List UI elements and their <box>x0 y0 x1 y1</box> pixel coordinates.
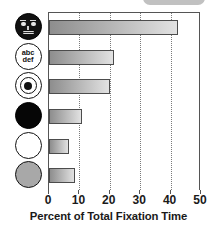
bar-row <box>49 43 114 73</box>
abc-def-line2: def <box>23 56 34 64</box>
bar-chart-figure: abc def 01020304050 Percent of Total Fix… <box>0 0 217 230</box>
bar-gray-circle-icon <box>49 168 75 183</box>
bar-bullseye-target-icon <box>49 79 110 94</box>
bullseye-target-icon <box>15 72 42 99</box>
category-icon-column: abc def <box>8 12 48 190</box>
target-center-dot <box>24 82 32 90</box>
category-icon-cell-1 <box>8 12 48 42</box>
x-axis-title: Percent of Total Fixation Time <box>0 210 217 222</box>
face-mouth <box>23 31 34 35</box>
category-icon-cell-2: abc def <box>8 42 48 72</box>
black-circle-icon <box>15 102 42 129</box>
x-axis-tick-labels: 01020304050 <box>48 193 200 209</box>
gray-circle-icon <box>15 161 42 188</box>
bar-row <box>49 102 82 132</box>
bar-row <box>49 13 178 43</box>
category-icon-cell-4 <box>8 101 48 131</box>
plot-area <box>48 12 200 190</box>
bar-row <box>49 131 69 161</box>
face-eye-right <box>31 22 36 25</box>
bar-row <box>49 72 110 102</box>
category-icon-cell-5 <box>8 130 48 160</box>
clipped-badge <box>143 0 205 5</box>
tick-label-50: 50 <box>193 193 206 207</box>
face-brow-right <box>30 20 36 22</box>
tick-label-0: 0 <box>45 193 52 207</box>
bar-face-icon <box>49 20 178 35</box>
tick-label-10: 10 <box>72 193 85 207</box>
face-glyph <box>19 19 37 35</box>
bar-row <box>49 161 75 191</box>
tick-label-20: 20 <box>102 193 115 207</box>
face-icon <box>15 13 42 40</box>
tick-label-30: 30 <box>133 193 146 207</box>
bar-white-circle-icon <box>49 139 69 154</box>
face-brow-left <box>20 20 26 22</box>
category-icon-cell-3 <box>8 71 48 101</box>
tick-label-40: 40 <box>163 193 176 207</box>
bar-black-circle-icon <box>49 109 82 124</box>
bar-abc-def-text-icon <box>49 50 114 65</box>
face-nose <box>27 26 29 29</box>
category-icon-cell-6 <box>8 160 48 190</box>
face-eye-left <box>21 22 26 25</box>
abc-def-text-icon: abc def <box>15 43 42 70</box>
white-circle-icon <box>15 132 42 159</box>
